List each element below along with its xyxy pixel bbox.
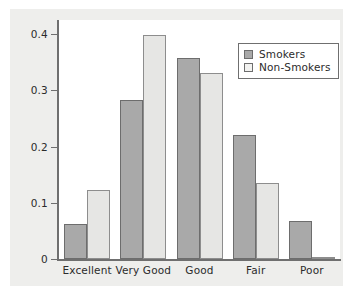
bar-smokers-fair [233,135,256,259]
bar-smokers-poor [289,221,312,259]
bar-non-smokers-excellent [87,190,110,259]
y-axis-tick-label: 0.3 [8,85,48,96]
bar-smokers-excellent [64,224,87,259]
bar-non-smokers-good [200,73,223,259]
bar-smokers-good [177,58,200,259]
legend-swatch-icon [244,63,253,72]
y-axis-tick-label: 0.4 [8,29,48,40]
bar-non-smokers-poor [312,257,335,259]
legend-item-label: Non-Smokers [259,62,331,73]
x-axis-line [57,259,341,261]
y-axis-tick [51,259,57,260]
y-axis-tick [51,90,57,91]
x-axis-tick-label: Poor [274,265,350,276]
y-axis-tick [51,147,57,148]
y-axis-tick-label: 0.2 [8,142,48,153]
y-axis-tick [51,34,57,35]
bar-non-smokers-fair [256,183,279,259]
y-axis-tick-label: 0 [8,254,48,265]
bar-smokers-very-good [120,100,143,259]
legend-item-smokers: Smokers [244,48,331,61]
chart-figure: 0.40.30.20.10 ExcellentVery GoodGoodFair… [10,9,343,286]
y-axis-tick-label: 0.1 [8,198,48,209]
y-axis-tick [51,203,57,204]
legend-item-label: Smokers [259,49,305,60]
legend-item-non-smokers: Non-Smokers [244,61,331,74]
bar-non-smokers-very-good [143,35,166,259]
chart-legend: Smokers Non-Smokers [238,43,339,79]
legend-swatch-icon [244,50,253,59]
